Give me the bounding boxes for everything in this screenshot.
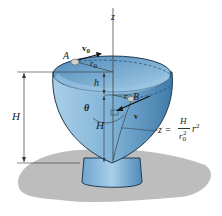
equation-lhs: z = xyxy=(158,125,171,135)
equation-denominator: r02 xyxy=(179,130,187,143)
equation-numerator: H xyxy=(180,117,187,126)
point-A-label: A xyxy=(63,51,69,61)
theta-label: θ xyxy=(84,103,89,113)
point-B-label: B xyxy=(133,92,139,102)
v0-sub: 0 xyxy=(87,47,91,55)
bowl-illustration xyxy=(0,0,222,216)
v-label: v xyxy=(134,113,138,121)
H-left-label: H xyxy=(12,111,20,122)
r-label: r xyxy=(124,92,128,101)
equation-rhs: r2 xyxy=(192,123,199,134)
H-inner-label: H xyxy=(96,120,104,131)
particle-A xyxy=(71,59,79,65)
r0-label: r0 xyxy=(90,59,97,70)
r0-sub: 0 xyxy=(94,62,98,70)
z-axis-label: z xyxy=(111,12,115,22)
v0-label: v0 xyxy=(82,44,90,55)
h-label: h xyxy=(94,78,99,88)
diagram-canvas: z A v0 r0 h r B θ H H v z = H r02 r2 xyxy=(0,0,222,216)
